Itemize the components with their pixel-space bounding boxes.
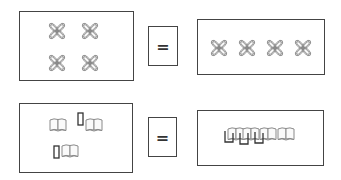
book-icon: [86, 119, 102, 131]
book-row-icon: [198, 111, 325, 167]
equals-box-2: =: [148, 117, 177, 157]
left-box-flowers: [19, 11, 134, 81]
flower-icon: [81, 22, 99, 40]
book-icon: [278, 128, 294, 140]
phone-icon: [78, 113, 83, 125]
flower-icon: [48, 54, 66, 72]
flower-row-icon: [198, 20, 326, 76]
flower-icon: [81, 54, 99, 72]
book-icon: [50, 119, 66, 131]
book-icon: [62, 145, 78, 157]
left-box-books: [19, 103, 133, 173]
equals-sign: =: [156, 37, 169, 56]
phone-icon: [54, 146, 59, 158]
flower-icon: [294, 39, 312, 57]
right-box-flowers: [197, 19, 325, 75]
flower-icon: [266, 39, 284, 57]
flower-icon: [210, 39, 228, 57]
right-box-books: [197, 110, 324, 166]
flower-group-icon: [20, 12, 135, 82]
book-icon: [228, 128, 244, 140]
flower-icon: [238, 39, 256, 57]
book-group-icon: [20, 104, 134, 174]
equals-box-1: =: [148, 26, 178, 66]
flower-icon: [48, 22, 66, 40]
book-icon: [243, 128, 259, 140]
equals-sign: =: [156, 128, 169, 147]
